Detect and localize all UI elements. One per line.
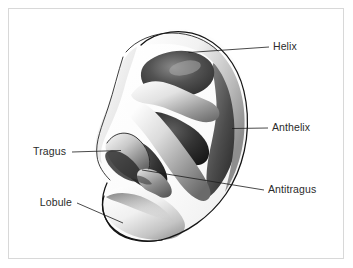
ear-illustration — [94, 29, 247, 242]
label-helix: Helix — [273, 40, 297, 52]
ear-anatomy-figure: Helix Anthelix Antitragus Tragus Lobule — [0, 0, 353, 268]
label-tragus: Tragus — [33, 145, 66, 157]
label-antitragus: Antitragus — [268, 183, 316, 195]
leader-line-anthelix — [232, 128, 268, 129]
label-anthelix: Anthelix — [272, 121, 311, 133]
ear-diagram-canvas: Helix Anthelix Antitragus Tragus Lobule — [0, 0, 353, 268]
label-lobule: Lobule — [40, 196, 72, 208]
